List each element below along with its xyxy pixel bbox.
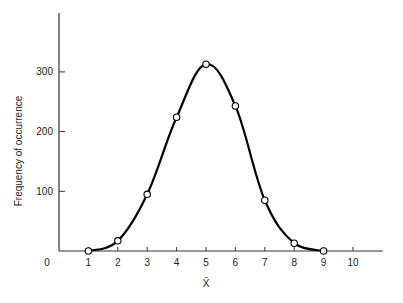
x-tick-label: 4 — [174, 257, 180, 268]
x-tick-label: 8 — [291, 257, 297, 268]
data-point-marker — [85, 248, 91, 254]
tick-marks: 012345678910100200300 — [36, 66, 359, 268]
y-tick-label: 100 — [36, 186, 53, 197]
x-tick-label: 2 — [115, 257, 121, 268]
frequency-curve — [88, 64, 323, 251]
y-axis-title: Frequency of occurrence — [13, 95, 24, 206]
data-point-marker — [232, 103, 238, 109]
data-point-marker — [262, 197, 268, 203]
x-tick-label: 5 — [203, 257, 209, 268]
data-point-marker — [173, 114, 179, 120]
data-point-marker — [115, 238, 121, 244]
data-point-marker — [291, 240, 297, 246]
chart: 012345678910100200300 Frequency of occur… — [0, 0, 403, 303]
axes — [59, 13, 383, 251]
data-curve — [88, 64, 323, 251]
x-tick-label: 7 — [262, 257, 268, 268]
y-tick-label: 200 — [36, 126, 53, 137]
x-tick-label: 9 — [321, 257, 327, 268]
y-tick-label: 300 — [36, 66, 53, 77]
x-tick-label: 1 — [86, 257, 92, 268]
data-point-marker — [320, 248, 326, 254]
x-tick-label: 10 — [347, 257, 359, 268]
data-point-marker — [144, 191, 150, 197]
data-markers — [85, 61, 327, 254]
x-tick-label: 3 — [144, 257, 150, 268]
data-point-marker — [203, 61, 209, 67]
x-axis-title: X̄ — [203, 277, 210, 289]
x-tick-label-0: 0 — [44, 257, 50, 268]
x-tick-label: 6 — [233, 257, 239, 268]
